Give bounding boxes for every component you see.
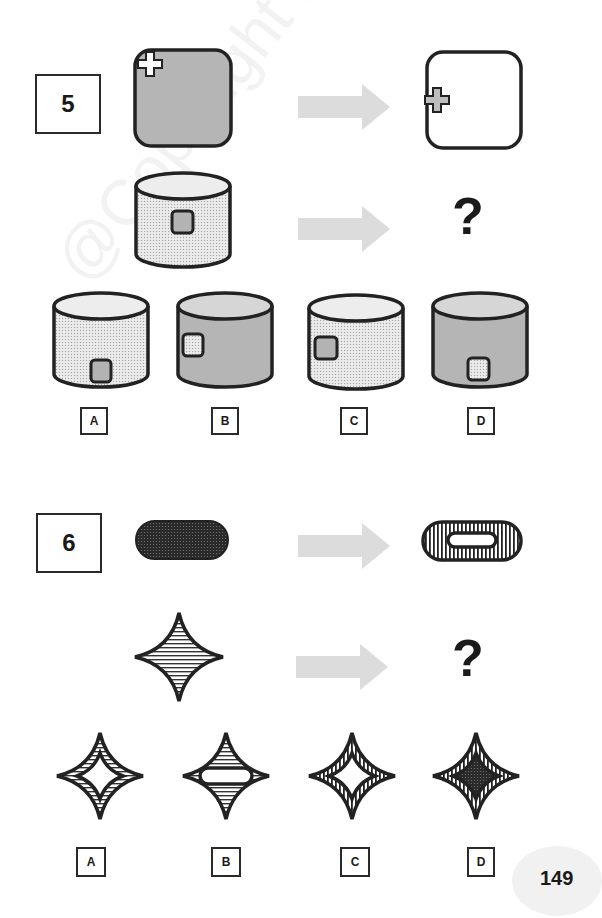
page-number: 149 (540, 867, 573, 890)
option-c-label[interactable]: C (340, 407, 368, 435)
option-b-label[interactable]: B (211, 407, 239, 435)
option-label-text: D (477, 855, 486, 869)
question-number-box: 6 (36, 513, 102, 573)
option-label-text: D (477, 414, 486, 428)
q6-example-to-shape (421, 520, 523, 562)
q5-option-a-shape[interactable] (52, 290, 150, 390)
watermark: @Copyright MindMill (40, 0, 462, 296)
question-number: 5 (61, 90, 74, 118)
q6-option-a-shape[interactable] (55, 731, 145, 821)
option-label-text: B (221, 414, 230, 428)
q5-option-b-shape[interactable] (176, 290, 274, 390)
question-number-box: 5 (35, 74, 101, 134)
option-c-label[interactable]: C (340, 847, 370, 877)
q5-example-to-shape (425, 50, 523, 150)
q6-option-d-shape[interactable] (431, 731, 521, 821)
option-label-text: B (222, 855, 231, 869)
option-label-text: C (351, 855, 360, 869)
arrow-icon (298, 523, 390, 569)
arrow-icon (298, 206, 390, 252)
q6-example-from-shape (134, 519, 230, 561)
option-d-label[interactable]: D (467, 407, 495, 435)
option-label-text: C (350, 414, 359, 428)
q5-option-c-shape[interactable] (307, 292, 405, 392)
question-mark: ? (452, 190, 484, 242)
option-b-label[interactable]: B (211, 847, 241, 877)
option-a-label[interactable]: A (80, 407, 108, 435)
q5-prompt-cylinder (134, 170, 232, 270)
question-mark: ? (452, 632, 484, 684)
q5-example-from-shape (133, 48, 233, 148)
option-label-text: A (90, 414, 99, 428)
arrow-icon (298, 84, 390, 130)
q6-option-c-shape[interactable] (307, 731, 397, 821)
question-number: 6 (62, 529, 75, 557)
option-a-label[interactable]: A (76, 847, 106, 877)
q6-prompt-star (133, 611, 225, 703)
arrow-icon (296, 644, 388, 690)
q5-option-d-shape[interactable] (431, 290, 529, 390)
option-d-label[interactable]: D (467, 847, 495, 877)
q6-option-b-shape[interactable] (181, 731, 271, 821)
option-label-text: A (87, 855, 96, 869)
